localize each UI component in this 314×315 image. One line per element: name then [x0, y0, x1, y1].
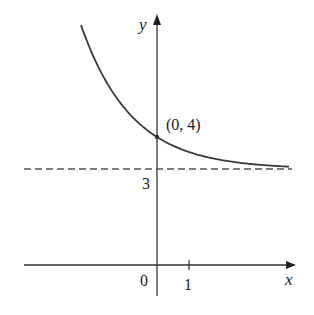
exponential-graph: y x 0 1 3 (0, 4) — [0, 0, 314, 315]
exponential-curve — [81, 25, 289, 167]
point-0-4 — [155, 135, 159, 139]
x-tick-1-label: 1 — [184, 276, 192, 293]
origin-label: 0 — [140, 272, 148, 289]
x-axis-arrow-icon — [286, 261, 296, 269]
x-axis-label: x — [284, 270, 293, 289]
point-label: (0, 4) — [166, 116, 201, 134]
asymptote-label: 3 — [142, 175, 150, 192]
y-axis-arrow-icon — [153, 14, 161, 25]
y-axis-label: y — [137, 15, 147, 34]
